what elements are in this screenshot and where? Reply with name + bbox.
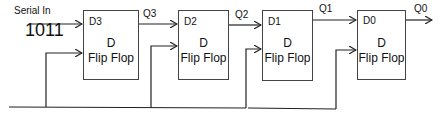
clock-wire-ff3 — [46, 53, 82, 107]
clock-bus-right — [248, 108, 336, 109]
ff-name: Flip Flop — [179, 51, 228, 66]
clock-wire-ff0 — [336, 50, 356, 109]
clock-bus-left — [9, 107, 246, 108]
pin-label: D2 — [184, 16, 197, 27]
ff-name: Flip Flop — [84, 51, 138, 66]
serial-in-label: Serial In — [14, 5, 51, 16]
flip-flop-d2: D2 D Flip Flop — [178, 10, 229, 80]
serial-in-value: 1011 — [25, 20, 64, 41]
output-label-q3: Q3 — [143, 8, 156, 19]
ff-type: D — [263, 36, 312, 51]
pin-label: D1 — [268, 16, 281, 27]
clock-wire-ff2 — [151, 46, 177, 108]
flip-flop-d1: D1 D Flip Flop — [262, 10, 313, 81]
clock-wire-ff1 — [246, 49, 261, 108]
output-label-q2: Q2 — [235, 9, 248, 20]
pin-label: D0 — [363, 15, 376, 26]
output-label-q0: Q0 — [414, 3, 427, 14]
ff-type: D — [358, 36, 405, 51]
ff-type: D — [179, 36, 228, 51]
pin-label: D3 — [89, 16, 102, 27]
output-label-q1: Q1 — [319, 3, 332, 14]
flip-flop-d0: D0 D Flip Flop — [357, 10, 406, 80]
ff-type: D — [84, 36, 138, 51]
ff-name: Flip Flop — [358, 51, 405, 66]
ff-name: Flip Flop — [263, 51, 312, 66]
flip-flop-d3: D3 D Flip Flop — [83, 10, 139, 80]
